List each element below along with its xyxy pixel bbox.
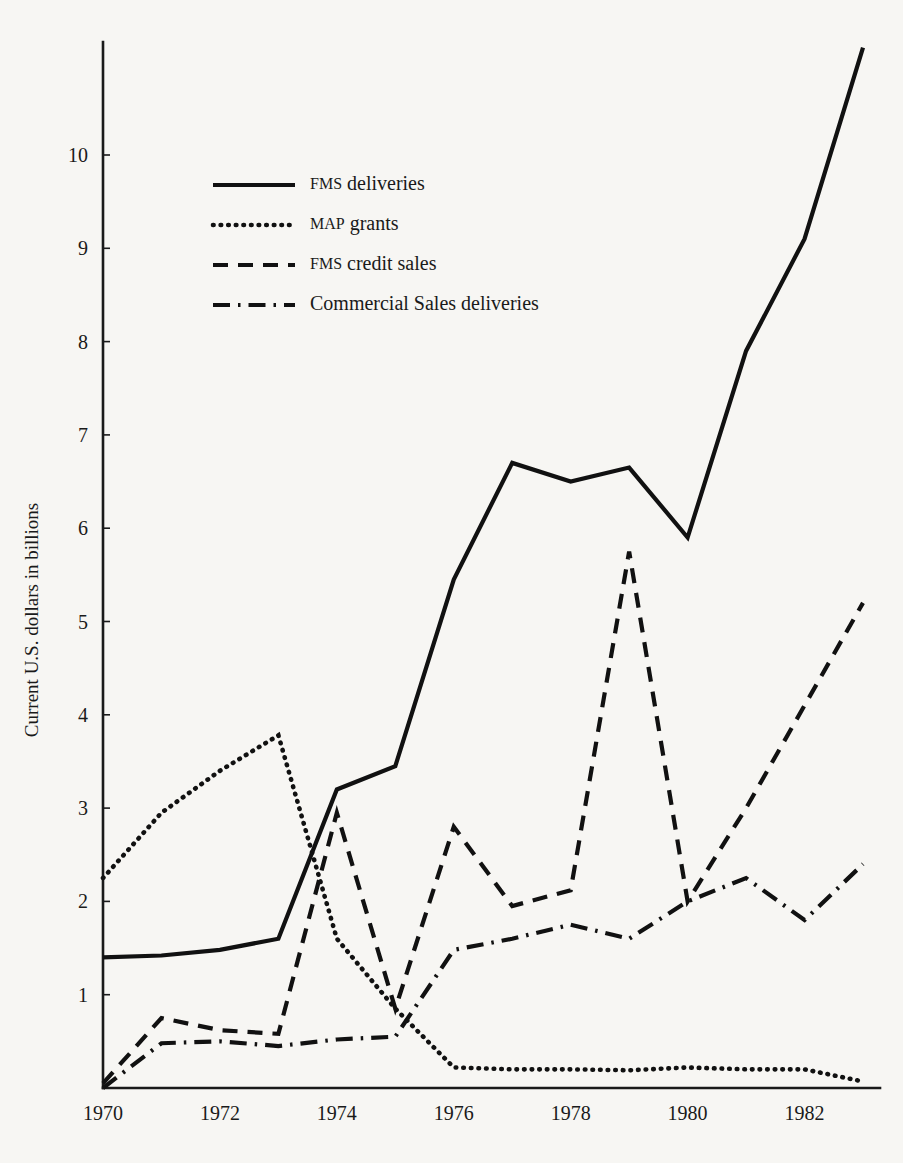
x-tick-label: 1970 — [83, 1102, 123, 1124]
y-tick-label: 1 — [78, 984, 88, 1006]
x-tick-label: 1974 — [317, 1102, 357, 1124]
x-tick-label: 1982 — [785, 1102, 825, 1124]
chart-container: Current U.S. dollars in billions 1234567… — [0, 0, 903, 1163]
y-tick-label: 4 — [78, 704, 88, 726]
series-line-fms-credit-sales — [103, 552, 863, 1084]
legend-label: FMS credit sales — [310, 252, 437, 274]
y-tick-label: 8 — [78, 331, 88, 353]
legend-label: Commercial Sales deliveries — [310, 292, 539, 314]
y-tick-label: 7 — [78, 424, 88, 446]
x-tick-label: 1980 — [668, 1102, 708, 1124]
series-line-map-grants — [103, 735, 863, 1081]
line-chart: Current U.S. dollars in billions 1234567… — [0, 0, 903, 1163]
legend-label: FMS deliveries — [310, 172, 425, 194]
y-axis-title: Current U.S. dollars in billions — [21, 503, 42, 737]
x-tick-label: 1972 — [200, 1102, 240, 1124]
series-line-commercial-sales-deliveries — [103, 864, 863, 1088]
x-tick-label: 1976 — [434, 1102, 474, 1124]
legend-label: MAP grants — [310, 212, 399, 235]
y-tick-label: 2 — [78, 890, 88, 912]
y-tick-label: 5 — [78, 611, 88, 633]
y-tick-label: 3 — [78, 797, 88, 819]
y-tick-label: 10 — [68, 144, 88, 166]
series-group — [103, 48, 863, 1088]
y-tick-label: 6 — [78, 517, 88, 539]
y-tick-label: 9 — [78, 237, 88, 259]
x-tick-group: 1970197219741976197819801982 — [83, 1102, 825, 1124]
chart-legend: FMS deliveriesMAP grantsFMS credit sales… — [213, 172, 539, 314]
x-tick-label: 1978 — [551, 1102, 591, 1124]
